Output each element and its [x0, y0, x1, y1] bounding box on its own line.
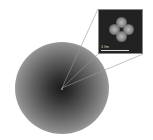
scale-label: 1 fm — [101, 45, 109, 49]
scale-bar — [101, 50, 129, 51]
zoom-inset: 1 fm — [98, 9, 143, 54]
lobe-bottom — [116, 31, 127, 42]
